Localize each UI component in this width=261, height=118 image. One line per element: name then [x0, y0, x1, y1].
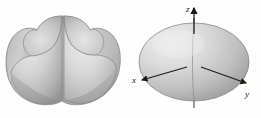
z-axis-label: z: [185, 4, 190, 14]
ellipsoid-highlight: [152, 30, 204, 58]
figure-right-oblate-ellipsoid: z x y: [130, 0, 261, 118]
x-axis-label: x: [131, 75, 136, 85]
figure-left-four-lobed-surface: [0, 0, 130, 118]
right-surface-svg: z x y: [130, 0, 261, 118]
left-surface-svg: [0, 0, 130, 118]
y-axis-label: y: [244, 89, 249, 99]
figure-panel: z x y: [0, 0, 261, 118]
